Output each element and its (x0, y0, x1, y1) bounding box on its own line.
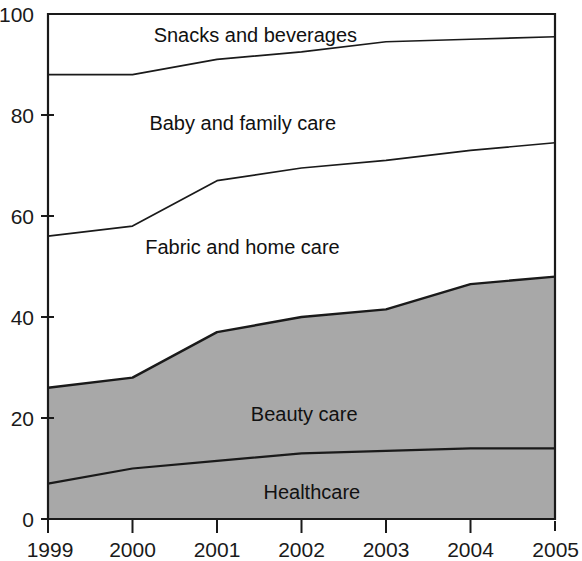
series-label-baby-and-family-care: Baby and family care (149, 112, 336, 134)
x-tick-label-2001: 2001 (194, 538, 241, 561)
series-label-healthcare: Healthcare (263, 481, 360, 503)
x-tick-label-2004: 2004 (447, 538, 494, 561)
x-axis-ticks (48, 519, 555, 533)
y-tick-label-0: 0 (22, 508, 34, 531)
y-axis-tick-labels: 020406080100 (0, 3, 34, 531)
series-label-snacks-and-beverages: Snacks and beverages (154, 24, 357, 46)
stacked-area-chart: 020406080100 199920002001200220032004200… (0, 0, 582, 561)
chart-root: 020406080100 199920002001200220032004200… (0, 0, 582, 561)
x-tick-label-2000: 2000 (109, 538, 156, 561)
series-label-fabric-and-home-care: Fabric and home care (145, 236, 340, 258)
x-tick-label-2002: 2002 (278, 538, 325, 561)
x-tick-label-2005: 2005 (532, 538, 579, 561)
y-tick-label-60: 60 (11, 205, 34, 228)
y-tick-label-80: 80 (11, 104, 34, 127)
y-tick-label-20: 20 (11, 407, 34, 430)
area-bands (48, 14, 555, 519)
series-label-beauty-care: Beauty care (251, 403, 358, 425)
y-tick-label-40: 40 (11, 306, 34, 329)
x-tick-label-2003: 2003 (363, 538, 410, 561)
x-axis-tick-labels: 1999200020012002200320042005 (27, 538, 579, 561)
y-tick-label-100: 100 (0, 3, 34, 26)
x-tick-label-1999: 1999 (27, 538, 74, 561)
